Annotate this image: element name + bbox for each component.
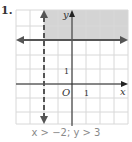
arrow-left-icon [16,36,24,44]
arrow-down-icon [40,116,48,124]
x-axis-label: x [120,86,126,97]
y-axis-label: y [62,9,69,20]
coordinate-graph: y x O 1 1 [0,0,132,142]
y-tick-label: 1 [64,67,69,76]
inequality-caption: x > −2; y > 3 [0,127,132,138]
x-tick-label: 1 [84,89,89,98]
origin-label: O [62,87,70,98]
